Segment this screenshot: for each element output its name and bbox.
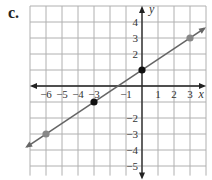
x-tick-label: 1	[155, 88, 161, 100]
x-axis-label: x	[198, 87, 205, 101]
x-tick-label: −5	[56, 88, 68, 100]
line-arrow-icon	[199, 27, 206, 33]
y-axis-arrow-icon	[139, 173, 145, 180]
data-point	[186, 34, 193, 41]
graph-line	[27, 28, 205, 146]
y-tick-label: −2	[126, 112, 138, 124]
y-tick-label: −4	[126, 144, 138, 156]
x-axis-arrow-icon	[30, 83, 37, 89]
y-tick-label: 2	[133, 48, 139, 60]
line-arrow-icon	[25, 141, 32, 147]
coordinate-plane: −6−5−4−3−1123432−2−3−4−5xy	[0, 0, 212, 180]
data-point	[42, 130, 49, 137]
data-point	[90, 98, 97, 105]
y-axis-label: y	[148, 2, 155, 16]
y-axis-arrow-icon	[139, 6, 145, 13]
x-tick-label: −4	[72, 88, 84, 100]
y-tick-label: 3	[133, 32, 139, 44]
x-tick-label: 2	[171, 88, 177, 100]
data-point	[138, 66, 145, 73]
y-tick-label: 4	[133, 16, 139, 28]
y-tick-label: −3	[126, 128, 138, 140]
x-tick-label: −1	[120, 88, 132, 100]
x-tick-label: 3	[187, 88, 193, 100]
y-tick-label: −5	[126, 160, 138, 172]
x-tick-label: −6	[40, 88, 52, 100]
